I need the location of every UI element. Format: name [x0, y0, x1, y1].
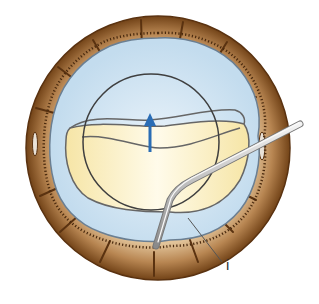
left-side-port: [33, 132, 38, 156]
eye-surgery-illustration: [0, 0, 319, 304]
figure-label-i: i: [226, 256, 229, 273]
